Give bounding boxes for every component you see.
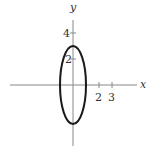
x-axis-label: x <box>140 78 147 91</box>
x-tick-label-2: 2 <box>95 91 102 104</box>
y-tick-label-2: 2 <box>65 53 72 66</box>
y-axis-label: y <box>69 1 77 14</box>
y-tick-label-4: 4 <box>63 27 70 40</box>
x-tick-label-3: 3 <box>108 91 115 104</box>
chart-canvas: y x 4 2 2 3 <box>0 0 153 146</box>
